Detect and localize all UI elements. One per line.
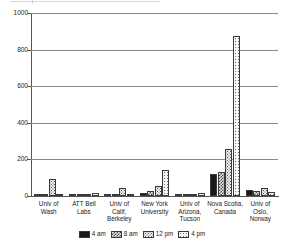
x-category-label: Nova Scotia,Canada	[205, 200, 245, 215]
bar-group	[175, 13, 205, 196]
x-category-label-line: Nova Scotia,	[205, 200, 245, 208]
bar	[190, 194, 197, 196]
bar	[119, 188, 126, 196]
x-category-label-line: Wash	[29, 208, 69, 216]
bar-chart: 02004006008001000 Univ ofWashATT BellLab…	[0, 0, 284, 248]
x-category-label-line: Univ of	[240, 200, 280, 208]
y-tick-mark-600	[27, 86, 31, 87]
x-category-label-line: ATT Bell	[64, 200, 104, 208]
bar	[77, 194, 84, 196]
y-tick-label-400: 400	[2, 120, 28, 127]
y-tick-label-0: 0	[2, 193, 28, 200]
bar	[162, 170, 169, 196]
legend-item: 4 am	[79, 231, 106, 238]
bar	[49, 179, 56, 196]
legend-label: 12 pm	[156, 231, 174, 237]
y-tick-mark-800	[27, 50, 31, 51]
legend-swatch-icon	[178, 231, 189, 238]
bar-group	[210, 13, 240, 196]
bar	[183, 194, 190, 196]
x-category-label-line: Tucson	[170, 215, 210, 223]
bar	[41, 194, 48, 196]
x-category-label: Univ ofCalif,Berkeley	[99, 200, 139, 223]
y-tick-mark-0	[27, 196, 31, 197]
x-axis-line	[31, 196, 279, 197]
y-tick-label-1000: 1000	[2, 10, 28, 17]
bar	[218, 172, 225, 196]
bar	[112, 194, 119, 196]
bar	[268, 192, 275, 196]
bar	[155, 186, 162, 196]
x-category-label-line: New York	[135, 200, 175, 208]
x-category-label: New YorkUniversity	[135, 200, 175, 215]
bar	[147, 191, 154, 196]
x-category-label-line: Univ of	[170, 200, 210, 208]
y-tick-mark-1000	[27, 13, 31, 14]
bar	[225, 149, 232, 196]
legend-swatch-icon	[143, 231, 154, 238]
bar	[140, 193, 147, 196]
bar	[175, 194, 182, 196]
bar	[84, 194, 91, 196]
bar	[246, 190, 253, 196]
x-category-label: Univ ofArizona,Tucson	[170, 200, 210, 223]
y-tick-label-600: 600	[2, 83, 28, 90]
y-tick-mark-200	[27, 159, 31, 160]
bar-group	[246, 13, 276, 196]
bar	[261, 188, 268, 196]
bar	[34, 194, 41, 196]
bar	[127, 194, 134, 196]
x-category-label-line: Oslo,	[240, 208, 280, 216]
cropped-title-artifact-tick	[32, 0, 33, 4]
x-category-label-line: Norway	[240, 215, 280, 223]
y-tick-mark-400	[27, 123, 31, 124]
legend-item: 8 am	[111, 231, 138, 238]
legend-label: 4 am	[92, 231, 106, 237]
x-category-label-line: Berkeley	[99, 215, 139, 223]
bar	[210, 174, 217, 196]
legend-label: 4 pm	[191, 231, 205, 237]
bar-group	[140, 13, 170, 196]
bar	[233, 36, 240, 196]
chart-legend: 4 am8 am12 pm4 pm	[0, 231, 284, 238]
x-category-label-line: University	[135, 208, 175, 216]
x-category-label-line: Labs	[64, 208, 104, 216]
bar	[104, 194, 111, 196]
x-category-label-line: Canada	[205, 208, 245, 216]
x-category-label: Univ ofWash	[29, 200, 69, 215]
x-category-label-line: Univ of	[29, 200, 69, 208]
legend-swatch-icon	[79, 231, 90, 238]
y-tick-label-800: 800	[2, 47, 28, 54]
bar	[92, 193, 99, 196]
bar-group	[69, 13, 99, 196]
x-category-label-line: Univ of	[99, 200, 139, 208]
legend-label: 8 am	[124, 231, 138, 237]
legend-item: 4 pm	[178, 231, 205, 238]
bar	[69, 194, 76, 196]
legend-item: 12 pm	[143, 231, 174, 238]
bar	[198, 193, 205, 196]
x-category-label: Univ ofOslo,Norway	[240, 200, 280, 223]
legend-swatch-icon	[111, 231, 122, 238]
bar-group	[34, 13, 64, 196]
x-category-label-line: Arizona,	[170, 208, 210, 216]
y-tick-label-200: 200	[2, 156, 28, 163]
bar	[253, 191, 260, 196]
bar	[56, 194, 63, 196]
x-category-label: ATT BellLabs	[64, 200, 104, 215]
x-category-label-line: Calif,	[99, 208, 139, 216]
plot-area	[31, 13, 278, 196]
bar-group	[104, 13, 134, 196]
